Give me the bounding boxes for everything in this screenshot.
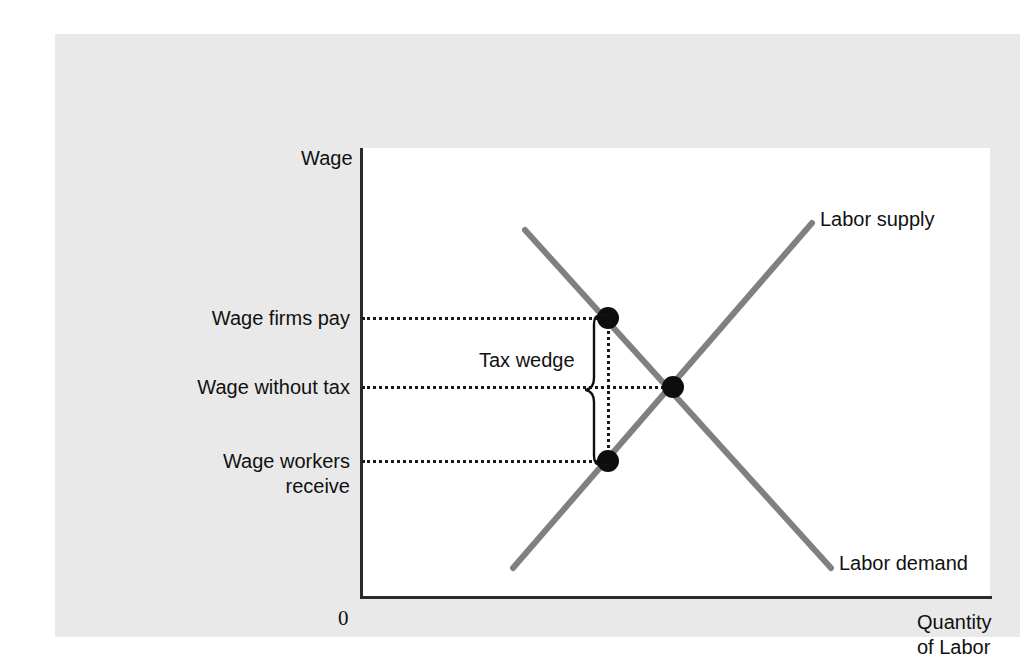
guide-line-wage-workers-receive [362,460,610,463]
label-wage-workers-receive: Wage workers receive [65,449,350,499]
y-axis-title: Wage [301,146,353,171]
guide-line-wage-without-tax [362,386,675,389]
labor-supply-label: Labor supply [820,208,935,231]
label-wage-firms-pay: Wage firms pay [65,306,350,331]
tax-wedge-label: Tax wedge [479,349,575,372]
labor-demand-label: Labor demand [839,552,968,575]
x-axis-title: Quantity of Labor [917,610,991,660]
origin-label: 0 [338,606,349,631]
label-wage-without-tax: Wage without tax [65,375,350,400]
guide-line-wage-firms-pay [362,317,610,320]
x-axis-line [360,596,992,599]
tax-wedge-brace [579,312,619,468]
figure-panel: Wage Quantity of Labor 0 Wage firms pay … [55,34,1020,637]
y-axis-line [360,148,363,599]
